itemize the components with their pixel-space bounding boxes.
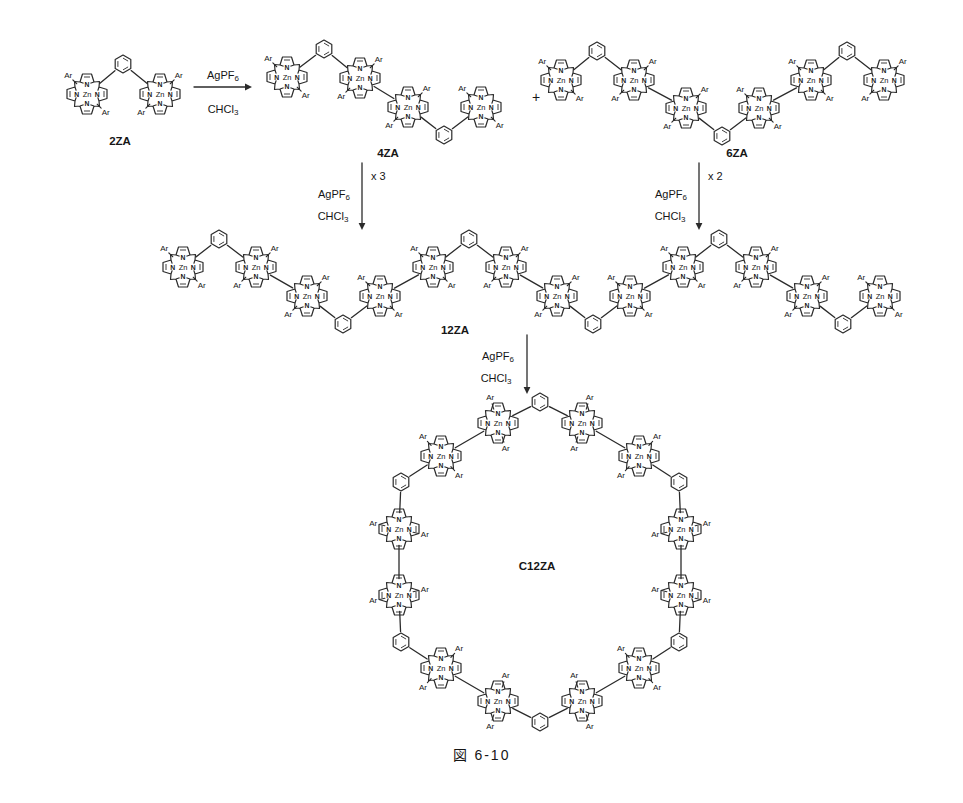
bond-line <box>662 591 667 592</box>
aryl-label: Ar <box>653 683 661 692</box>
bond-line <box>596 676 624 692</box>
phenylene-linker <box>714 127 730 145</box>
phenylene-linker <box>393 633 409 651</box>
aryl-label: Ar <box>651 530 659 539</box>
aryl-label: Ar <box>899 57 907 66</box>
aryl-label: Ar <box>160 244 168 253</box>
aryl-label: Ar <box>784 310 792 319</box>
bond-line <box>477 245 492 257</box>
bond-line <box>455 676 483 692</box>
solvent-label: CHCl3 <box>655 210 686 223</box>
aryl-label: Ar <box>421 530 429 539</box>
bond-line <box>374 87 394 99</box>
porphyrin-unit <box>619 436 659 476</box>
aryl-label: Ar <box>421 585 429 594</box>
aryl-label: Ar <box>369 596 377 605</box>
compound-label-2ZA: 2ZA <box>109 135 131 147</box>
porphyrin-unit <box>478 403 518 443</box>
aryl-label: Ar <box>895 310 903 319</box>
compound-C12ZA: ArArArArArArArArArArArArArArArArArArArAr… <box>369 393 711 731</box>
bond-line <box>730 118 745 130</box>
aryl-label: Ar <box>395 310 403 319</box>
aryl-label: Ar <box>369 519 377 528</box>
bond-line <box>695 525 700 526</box>
stoichiometry-label: x 3 <box>371 170 386 182</box>
aryl-label: Ar <box>302 91 310 100</box>
phenylene-linker <box>671 473 687 491</box>
bond-line <box>824 58 839 70</box>
bond-line <box>421 117 436 128</box>
aryl-label: Ar <box>651 585 659 594</box>
arrowhead-icon <box>696 223 703 230</box>
compound-label-4ZA: 4ZA <box>377 147 399 159</box>
bond-line <box>644 275 668 288</box>
aryl-label: Ar <box>703 519 711 528</box>
bond-line <box>653 648 670 659</box>
aryl-label: Ar <box>483 281 491 290</box>
aryl-label: Ar <box>502 671 510 680</box>
aryl-label: Ar <box>538 57 546 66</box>
aryl-label: Ar <box>733 281 741 290</box>
porphyrin-unit <box>562 403 602 443</box>
bond-line <box>855 57 871 69</box>
reaction-arrow: AgPF6CHCl3 <box>194 69 252 116</box>
porphyrin-unit <box>478 681 518 721</box>
aryl-label: Ar <box>502 444 510 453</box>
phenylene-linker <box>335 315 351 333</box>
bond-line <box>727 245 742 257</box>
bond-line <box>410 465 427 476</box>
aryl-label: Ar <box>375 55 383 64</box>
reagent-label: AgPF6 <box>482 350 515 363</box>
bond-line <box>605 57 621 69</box>
bond-line <box>699 118 714 129</box>
aryl-label: Ar <box>175 71 183 80</box>
porphyrin-unit <box>562 681 602 721</box>
aryl-label: Ar <box>576 94 584 103</box>
bond-line <box>695 598 700 599</box>
aryl-label: Ar <box>198 281 206 290</box>
phenylene-linker <box>711 230 727 248</box>
bond-line <box>653 465 670 476</box>
aryl-label: Ar <box>137 108 145 117</box>
aryl-label: Ar <box>788 57 796 66</box>
bond-line <box>774 88 797 100</box>
reagent-label: AgPF6 <box>655 188 688 201</box>
aryl-label: Ar <box>322 273 330 282</box>
bond-line <box>413 532 418 533</box>
aryl-label: Ar <box>649 57 657 66</box>
aryl-label: Ar <box>284 310 292 319</box>
bond-line <box>270 275 292 288</box>
bond-line <box>696 245 711 256</box>
aryl-label: Ar <box>496 121 504 130</box>
bond-line <box>649 88 672 100</box>
aryl-label: Ar <box>570 671 578 680</box>
plus-sign: + <box>532 89 540 105</box>
solvent-label: CHCl3 <box>318 210 349 223</box>
aryl-label: Ar <box>857 273 865 282</box>
aryl-label: Ar <box>645 310 653 319</box>
porphyrin-unit <box>421 648 461 688</box>
solvent-label: CHCl3 <box>481 372 512 385</box>
phenylene-linker <box>316 40 332 58</box>
bond-line <box>662 532 667 533</box>
bond-line <box>596 431 624 447</box>
reagent-label: AgPF6 <box>318 188 351 201</box>
figure-caption: 図 6-10 <box>0 744 963 764</box>
solvent-label: CHCl3 <box>208 103 239 116</box>
aryl-label: Ar <box>570 444 578 453</box>
aryl-label: Ar <box>102 108 110 117</box>
bond-line <box>570 306 585 317</box>
bond-line <box>196 245 211 256</box>
aryl-label: Ar <box>357 273 365 282</box>
stoichiometry-label: x 2 <box>708 170 723 182</box>
arrowhead-icon <box>245 84 252 91</box>
bond-line <box>513 708 531 717</box>
aryl-label: Ar <box>419 432 427 441</box>
aryl-label: Ar <box>701 85 709 94</box>
bond-line <box>549 708 567 717</box>
aryl-label: Ar <box>822 273 830 282</box>
aryl-label: Ar <box>458 84 466 93</box>
reaction-arrow: AgPF6CHCl3x 2 <box>655 163 723 230</box>
bond-line <box>770 275 792 288</box>
aryl-label: Ar <box>385 121 393 130</box>
